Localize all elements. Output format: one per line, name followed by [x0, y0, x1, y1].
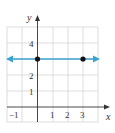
y-axis-label: y — [26, 12, 32, 23]
grid — [7, 27, 98, 122]
point-3-3 — [80, 56, 85, 61]
graph: y x −1 1 2 3 1 2 4 — [0, 0, 115, 133]
tick-x-1: 1 — [50, 110, 55, 120]
tick-x-3: 3 — [80, 110, 85, 120]
tick-x-2: 2 — [65, 110, 70, 120]
x-axis-arrow-icon — [104, 105, 110, 110]
tick-y-2: 2 — [29, 71, 34, 81]
point-0-3 — [35, 56, 40, 61]
tick-y-4: 4 — [29, 39, 34, 49]
line-right-arrow-icon — [93, 56, 100, 63]
tick-x-neg1: −1 — [9, 110, 19, 120]
tick-y-1: 1 — [29, 87, 34, 97]
x-axis-label: x — [105, 111, 111, 122]
y-axis-arrow-icon — [35, 15, 40, 21]
